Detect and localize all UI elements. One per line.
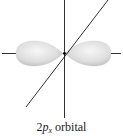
nucleus xyxy=(63,52,66,55)
right-lobe xyxy=(65,41,111,66)
orbital-caption: 2px orbital xyxy=(0,119,123,137)
orbital-diagram xyxy=(0,0,123,118)
left-lobe xyxy=(16,41,63,66)
caption-word: orbital xyxy=(52,120,86,134)
